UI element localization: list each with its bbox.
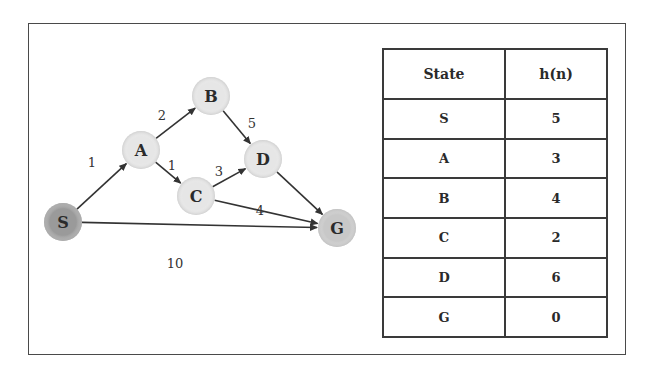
heuristic-table: State h(n) S 5 A 3 B 4 C 2 D 6 G 0 — [382, 48, 608, 338]
edge-weight-label: 5 — [248, 116, 256, 131]
h-value-cell: 0 — [505, 297, 607, 337]
h-value-cell: 5 — [505, 99, 607, 139]
node-label: A — [134, 141, 148, 160]
node-label: B — [204, 87, 218, 106]
node-label: D — [256, 150, 270, 169]
h-value-cell: 6 — [505, 258, 607, 298]
state-cell: D — [383, 258, 505, 298]
table-row: C 2 — [383, 218, 607, 258]
node-D: D — [244, 140, 282, 178]
node-C: C — [177, 177, 215, 215]
edge-D-G — [277, 172, 322, 214]
header-hn: h(n) — [505, 49, 607, 99]
state-cell: C — [383, 218, 505, 258]
state-cell: A — [383, 139, 505, 179]
edge-weight-label: 1 — [168, 158, 176, 173]
table-row: A 3 — [383, 139, 607, 179]
state-cell: B — [383, 178, 505, 218]
node-B: B — [192, 77, 230, 115]
edge-weight-label: 10 — [167, 256, 184, 271]
h-value-cell: 3 — [505, 139, 607, 179]
state-cell: S — [383, 99, 505, 139]
node-A: A — [122, 131, 160, 169]
table-header-row: State h(n) — [383, 49, 607, 99]
node-G: G — [318, 209, 356, 247]
edge-weight-label: 2 — [158, 108, 166, 123]
h-value-cell: 4 — [505, 178, 607, 218]
table-row: G 0 — [383, 297, 607, 337]
edge-C-G — [215, 200, 318, 223]
table-row: D 6 — [383, 258, 607, 298]
header-state: State — [383, 49, 505, 99]
edge-weight-label: 3 — [215, 164, 223, 179]
edge-weight-label: 1 — [88, 155, 96, 170]
edge-B-D — [223, 111, 250, 144]
table-row: S 5 — [383, 99, 607, 139]
node-S: S — [44, 203, 82, 241]
node-label: C — [190, 187, 203, 206]
state-cell: G — [383, 297, 505, 337]
table-row: B 4 — [383, 178, 607, 218]
edge-S-G — [82, 222, 317, 227]
h-value-cell: 2 — [505, 218, 607, 258]
node-label: S — [57, 213, 69, 232]
node-label: G — [330, 219, 344, 238]
edge-weight-label: 4 — [256, 203, 264, 218]
edge-S-A — [77, 164, 126, 210]
